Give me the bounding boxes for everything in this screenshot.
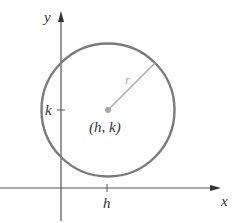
center-dot [105, 107, 111, 113]
y-axis-label: y [42, 9, 51, 25]
x-axis-arrow-icon [210, 185, 221, 191]
k-label: k [45, 102, 52, 118]
circle-diagram: y x h k (h, k) r [0, 0, 235, 223]
x-axis [0, 185, 221, 191]
h-label: h [103, 195, 111, 211]
center-label: (h, k) [89, 119, 121, 136]
y-axis [58, 11, 64, 221]
radius-line [108, 63, 155, 110]
y-axis-arrow-icon [58, 11, 64, 22]
diagram-canvas: y x h k (h, k) r [0, 0, 235, 223]
radius-label: r [125, 72, 131, 87]
x-axis-label: x [220, 193, 228, 209]
